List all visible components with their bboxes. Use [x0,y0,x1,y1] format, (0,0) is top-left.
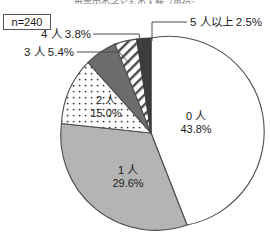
pie-chart-screenshot: 世帯内の子どもの人数（単位：人） [0,0,270,238]
callout-label-4nin: 4 人 3.8% [41,28,91,40]
slice-label-1nin-name: 1 人 [118,164,138,176]
slice-label-1nin-pct: 29.6% [112,177,143,189]
callout-label-3nin: 3 人 5.4% [24,46,74,58]
slice-label-2nin-pct: 15.0% [90,107,121,119]
slice-label-0nin-pct: 43.8% [180,123,211,135]
slice-label-2nin-name: 2 人 [96,94,116,106]
slice-label-0nin-name: 0 人 [186,110,206,122]
callout-label-5nin-ijou: 5 人以上 2.5% [190,16,262,28]
sample-size-label: n=240 [12,16,43,28]
pie-chart-figure: n=240 0 人 43.8% 1 人 29.6% 2 人 15.0% 3 人 … [0,0,270,238]
